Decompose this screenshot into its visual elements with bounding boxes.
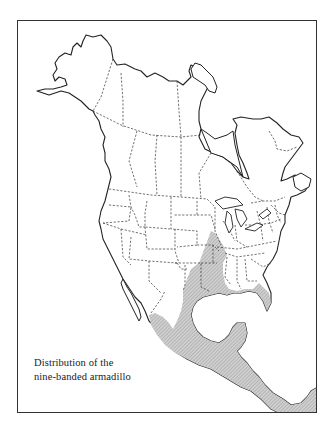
caption-line-2: nine-banded armadillo (34, 370, 131, 384)
north-america-map (18, 21, 317, 413)
map-frame: Distribution of the nine-banded armadill… (17, 20, 317, 413)
caption-line-1: Distribution of the (34, 356, 131, 370)
map-caption: Distribution of the nine-banded armadill… (34, 356, 131, 384)
